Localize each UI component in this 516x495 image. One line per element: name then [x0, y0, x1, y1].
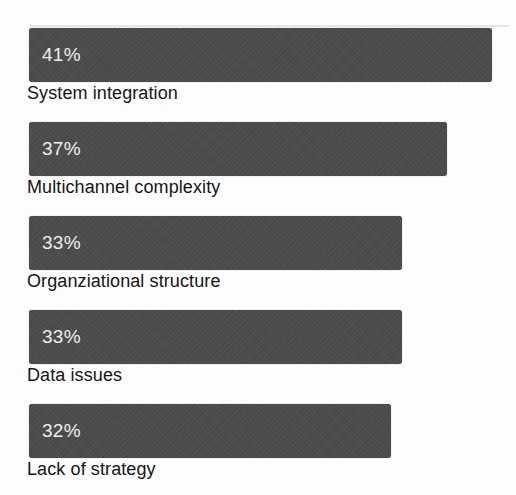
bar-value-label: 37%: [29, 138, 81, 160]
bar-chart: 41% System integration 37% Multichannel …: [29, 28, 516, 495]
bar-group: 33% Organziational structure: [29, 216, 516, 290]
bar: 37%: [29, 122, 447, 176]
bar-value-label: 32%: [29, 420, 81, 442]
category-label: Lack of strategy: [27, 459, 516, 480]
bar-value-label: 33%: [29, 326, 81, 348]
bar: 33%: [29, 216, 402, 270]
bar-group: 41% System integration: [29, 28, 516, 102]
category-label: Data issues: [27, 365, 516, 386]
bar-value-label: 41%: [29, 44, 81, 66]
bar-value-label: 33%: [29, 232, 81, 254]
category-label: Organziational structure: [27, 271, 516, 292]
scan-artifact-line: [30, 25, 510, 27]
bar-group: 37% Multichannel complexity: [29, 122, 516, 196]
bar-group: 32% Lack of strategy: [29, 404, 516, 478]
bar-group: 33% Data issues: [29, 310, 516, 384]
bar: 32%: [29, 404, 391, 458]
bar: 41%: [29, 28, 492, 82]
category-label: System integration: [27, 83, 516, 104]
bar: 33%: [29, 310, 402, 364]
category-label: Multichannel complexity: [27, 177, 516, 198]
